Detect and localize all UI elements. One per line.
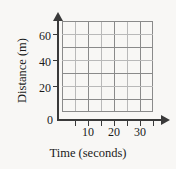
y-axis-arrow-icon xyxy=(53,12,63,21)
x-axis-tick-label: 30 xyxy=(128,126,152,138)
x-axis-line xyxy=(57,119,163,121)
plot-area xyxy=(62,21,153,112)
gridline-horizontal xyxy=(62,21,153,22)
y-axis-tick-label: 60 xyxy=(29,30,51,42)
x-axis-tick-label: 10 xyxy=(76,126,100,138)
x-axis-title: Time (seconds) xyxy=(0,146,176,161)
x-axis-arrow-icon xyxy=(161,115,170,125)
origin-label: 0 xyxy=(45,114,55,126)
y-axis-tick-label: 20 xyxy=(29,82,51,94)
x-axis-tick xyxy=(153,121,154,126)
gridline-horizontal xyxy=(62,47,153,48)
gridline-horizontal xyxy=(62,60,153,61)
chart-figure: 60 40 20 0 10 20 30 Time (seconds) Dista… xyxy=(0,0,176,169)
gridline-horizontal xyxy=(62,86,153,87)
y-axis-tick xyxy=(53,34,58,35)
y-axis-tick xyxy=(53,86,58,87)
gridline-horizontal xyxy=(62,34,153,35)
gridline-horizontal xyxy=(62,111,153,112)
y-axis-tick-label: 40 xyxy=(29,56,51,68)
gridline-horizontal xyxy=(62,99,153,100)
y-axis-title: Distance (m) xyxy=(15,11,30,131)
y-axis-tick xyxy=(53,60,58,61)
x-axis-tick-label: 20 xyxy=(102,126,126,138)
gridline-horizontal xyxy=(62,73,153,74)
